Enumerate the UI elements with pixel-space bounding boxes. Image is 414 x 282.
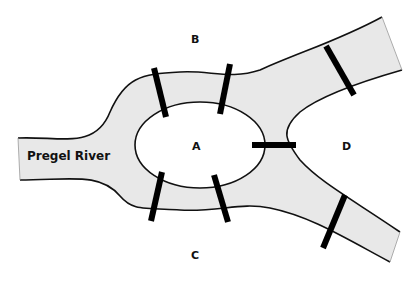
land-label-a: A <box>192 141 201 152</box>
land-label-c: C <box>191 250 199 261</box>
konigsberg-diagram <box>0 0 414 282</box>
land-label-d: D <box>342 141 351 152</box>
river-label: Pregel River <box>27 150 110 162</box>
land-label-b: B <box>191 34 199 45</box>
